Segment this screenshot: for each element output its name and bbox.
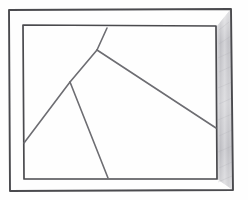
sketch-drawing: [0, 0, 248, 200]
sketch-canvas: [0, 0, 248, 200]
paper-background: [0, 0, 248, 200]
